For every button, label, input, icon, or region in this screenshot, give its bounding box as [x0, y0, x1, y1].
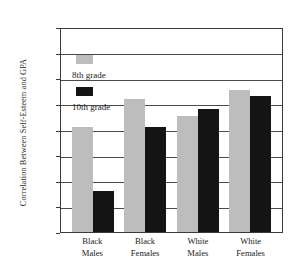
bar	[93, 191, 114, 232]
bar-group	[67, 29, 119, 232]
bar-chart: Correlation Between Self-Esteem and GPA …	[0, 0, 300, 278]
legend-swatch-10th-grade	[76, 87, 93, 96]
legend-label-8th-grade: 8th grade	[72, 70, 106, 80]
bar	[145, 127, 166, 232]
bar	[198, 109, 219, 232]
y-tick-mark	[56, 207, 60, 208]
y-tick-mark	[56, 28, 60, 29]
bar	[124, 99, 145, 232]
x-tick-label: BlackFemales	[119, 236, 172, 259]
legend-swatch-8th-grade	[76, 55, 93, 64]
y-tick-mark	[56, 233, 60, 234]
y-tick-mark	[56, 182, 60, 183]
x-axis-labels: BlackMalesBlackFemalesWhiteMalesWhiteFem…	[60, 236, 283, 259]
bar-group	[224, 29, 276, 232]
y-tick-mark	[56, 54, 60, 55]
y-tick-mark	[56, 156, 60, 157]
bar-group	[172, 29, 224, 232]
bar-group	[119, 29, 171, 232]
y-axis-title: Correlation Between Self-Esteem and GPA	[19, 18, 28, 248]
x-tick-label: WhiteMales	[172, 236, 225, 259]
x-tick-label: BlackMales	[66, 236, 119, 259]
legend-label-10th-grade: 10th grade	[72, 102, 110, 112]
bar	[72, 127, 93, 232]
bar-groups	[61, 29, 282, 232]
y-tick-mark	[56, 79, 60, 80]
plot-area: 8th grade 10th grade	[60, 28, 283, 233]
y-tick-mark	[56, 131, 60, 132]
y-tick-mark	[56, 105, 60, 106]
bar	[229, 90, 250, 232]
bar	[250, 96, 271, 232]
x-tick-label: WhiteFemales	[224, 236, 277, 259]
bar	[177, 116, 198, 232]
